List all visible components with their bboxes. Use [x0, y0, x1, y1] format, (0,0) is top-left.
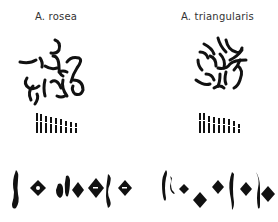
meiotic-figures-rosea: [8, 170, 134, 212]
species-label-triangularis: A. triangularis: [181, 11, 254, 22]
meiotic-figures-triangularis: [160, 168, 276, 214]
karyotype-rosea: [36, 113, 86, 135]
karyotype-triangularis: [199, 113, 245, 135]
species-label-rosea: A. rosea: [35, 11, 77, 22]
metaphase-spread-triangularis: [190, 36, 262, 94]
metaphase-spread-rosea: [15, 36, 105, 108]
